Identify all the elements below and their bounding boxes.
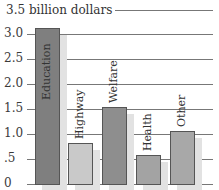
y-tick-label: 1.5 [4,102,23,114]
bar-label: Highway [73,90,86,139]
bar-highway [68,143,93,185]
y-tick-label: .5 [4,152,15,164]
bar-label: Education [40,43,53,100]
y-tick-label: 3.0 [4,27,23,39]
y-tick-label: 2.5 [4,52,23,64]
gridline-3-5 [115,10,213,11]
chart-title: 3.5 billion dollars [6,3,112,17]
bar-label: Welfare [107,60,120,103]
y-tick-label: 2.0 [4,77,23,89]
bar-health [136,155,161,185]
bar-other [170,131,195,185]
y-tick-label: 1.0 [4,127,23,139]
bar-label: Health [141,113,154,151]
bar-welfare [102,107,127,185]
bar-label: Other [175,95,188,127]
y-tick-label: 0 [4,177,12,189]
